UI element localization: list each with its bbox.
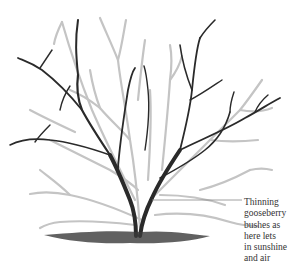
caption-line: here lets	[244, 231, 298, 242]
caption: Thinning gooseberry bushes as here lets …	[244, 197, 298, 265]
caption-line: gooseberry	[244, 208, 298, 219]
caption-line: in sunshine	[244, 242, 298, 253]
caption-line: bushes as	[244, 220, 298, 231]
caption-line: and air	[244, 253, 298, 264]
ground	[44, 231, 210, 243]
caption-line: Thinning	[244, 197, 298, 208]
kept-branches	[10, 20, 280, 236]
